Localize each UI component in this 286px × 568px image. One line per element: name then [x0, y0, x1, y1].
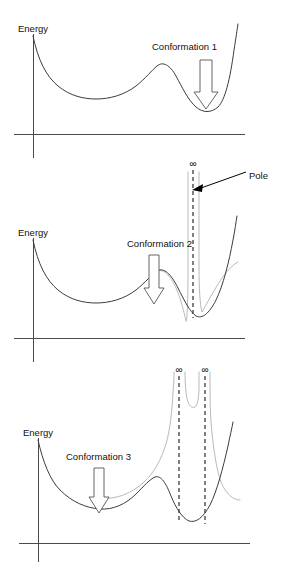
panel-3-y-axis-label: Energy: [23, 427, 53, 438]
panel-1-annotation-label: Conformation 1: [152, 41, 217, 52]
panel-2-y-axis-label: Energy: [18, 227, 48, 238]
panel-1: Energy Conformation 1: [14, 23, 245, 158]
figure-canvas: Energy Conformation 1 ∞ Energy Conformat…: [0, 0, 286, 568]
panel-3-energy-curve: [38, 422, 233, 521]
energy-landscape-figure: Energy Conformation 1 ∞ Energy Conformat…: [0, 0, 286, 568]
panel-3: ∞ ∞ Energy Conformation 3: [19, 364, 250, 562]
panel-2-infinity-symbol: ∞: [189, 158, 196, 169]
panel-3-infinity-symbol-1: ∞: [175, 364, 182, 375]
panel-2-annotation-label: Conformation 2: [127, 238, 192, 249]
panel-2-pole-leader: [192, 172, 246, 192]
panel-2-energy-curve: [33, 216, 237, 317]
panel-3-infinity-symbol-2: ∞: [201, 364, 208, 375]
panel-3-annotation-label: Conformation 3: [66, 451, 131, 462]
panel-2-pole-label: Pole: [249, 170, 268, 181]
panel-3-block-arrow-down-icon: [89, 468, 109, 513]
panel-2: ∞ Energy Conformation 2 Pole: [14, 158, 268, 362]
panel-1-y-axis-label: Energy: [18, 23, 48, 34]
panel-1-block-arrow-down-icon: [194, 60, 218, 109]
